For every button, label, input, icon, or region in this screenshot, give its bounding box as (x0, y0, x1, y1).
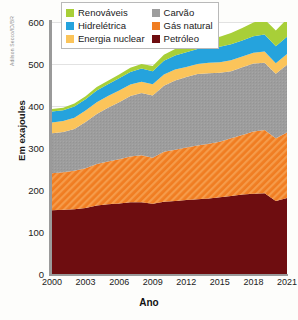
y-tick-300: 300 (0, 143, 44, 154)
y-tick-500: 500 (0, 59, 44, 70)
x-tick-2000: 2000 (42, 277, 62, 287)
x-tick-2009: 2009 (143, 277, 163, 287)
legend-label-energia_nuclear: Energia nuclear (78, 34, 145, 44)
legend-item-renovaveis: Renováveis (66, 6, 145, 19)
y-tick-200: 200 (0, 185, 44, 196)
chart-figure: Adilson Secco/ID/BR Em exajoules 0100200… (0, 0, 298, 320)
x-tick-2006: 2006 (109, 277, 129, 287)
x-axis-line (49, 274, 288, 276)
legend-label-petroleo: Petróleo (164, 34, 199, 44)
legend-swatch-energia_nuclear (66, 35, 74, 43)
stacked-area-series (52, 22, 287, 274)
x-tick-2018: 2018 (243, 277, 263, 287)
legend-item-carvao: Carvão (152, 6, 213, 19)
legend-swatch-carvao (152, 9, 160, 17)
x-axis-title: Ano (0, 297, 298, 308)
legend-swatch-hidreletrica (66, 22, 74, 30)
legend-label-renovaveis: Renováveis (78, 8, 128, 18)
legend-label-carvao: Carvão (164, 8, 195, 18)
x-tick-2003: 2003 (76, 277, 96, 287)
legend-swatch-gas_natural (152, 22, 160, 30)
legend-label-hidreletrica: Hidrelétrica (78, 21, 126, 31)
legend-item-hidreletrica: Hidrelétrica (66, 19, 145, 32)
legend-label-gas_natural: Gás natural (164, 21, 213, 31)
y-tick-600: 600 (0, 17, 44, 28)
legend-swatch-petroleo (152, 35, 160, 43)
x-tick-2012: 2012 (176, 277, 196, 287)
x-tick-2015: 2015 (210, 277, 230, 287)
x-tick-2021: 2021 (277, 277, 297, 287)
chart-legend: RenováveisCarvãoHidrelétricaGás naturalE… (61, 2, 219, 49)
legend-item-energia_nuclear: Energia nuclear (66, 32, 145, 45)
plot-area (52, 22, 287, 274)
y-tick-400: 400 (0, 101, 44, 112)
legend-item-gas_natural: Gás natural (152, 19, 213, 32)
legend-item-petroleo: Petróleo (152, 32, 213, 45)
y-tick-0: 0 (0, 269, 44, 280)
legend-swatch-renovaveis (66, 9, 74, 17)
y-tick-100: 100 (0, 227, 44, 238)
